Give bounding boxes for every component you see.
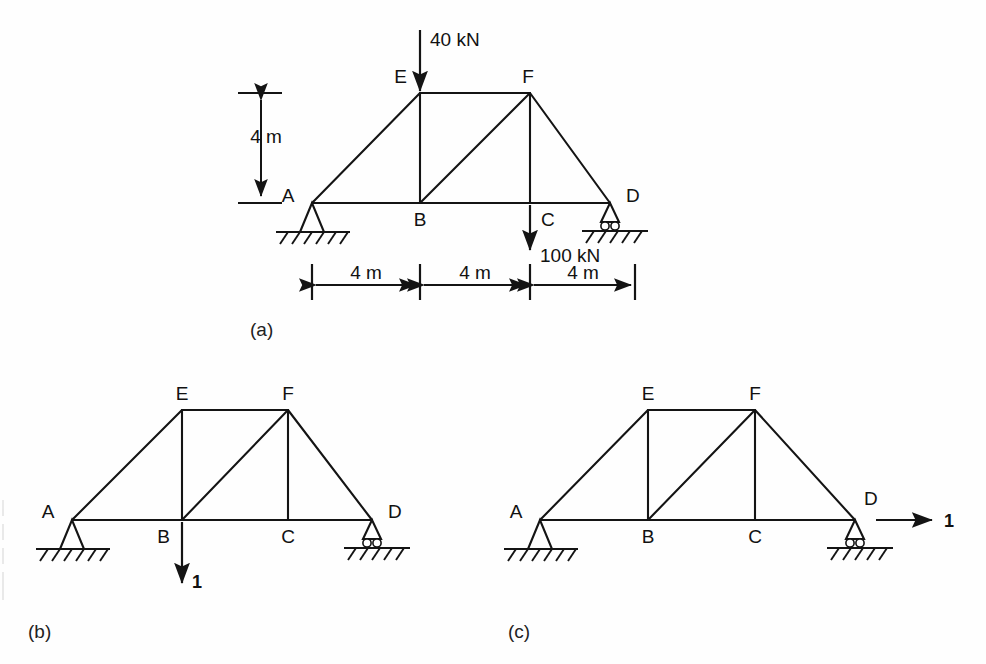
member-FD — [288, 410, 372, 520]
panel-b-node-label-F: F — [282, 383, 294, 404]
member-BF-diagonal — [648, 410, 755, 520]
panel-a-height-dimension — [238, 93, 282, 203]
panel-c-pin-support-A — [504, 520, 578, 561]
panel-a-pin-support-A — [276, 203, 350, 244]
panel-c: A B C D E F 1 (c) — [504, 383, 954, 642]
panel-a-span-label-3: 4 m — [567, 262, 599, 283]
member-FD — [530, 93, 610, 203]
panel-c-roller-support-D — [827, 520, 893, 560]
panel-b-node-label-E: E — [176, 383, 189, 404]
panel-b-node-label-B: B — [157, 526, 170, 547]
panel-c-node-label-D: D — [864, 488, 878, 509]
panel-a-node-label-E: E — [394, 66, 407, 87]
panel-a-height-label: 4 m — [250, 126, 282, 147]
member-AE — [540, 410, 648, 520]
member-AE — [312, 93, 420, 203]
panel-c-caption: (c) — [508, 621, 530, 642]
panel-a-node-label-B: B — [414, 209, 427, 230]
panel-b-caption: (b) — [28, 621, 51, 642]
panel-a: A B C D E F 40 kN 100 kN 4 m 4 m 4 m 4 m… — [238, 29, 648, 340]
panel-b-unit-load-label: 1 — [192, 572, 202, 592]
panel-b-roller-support-D — [344, 520, 410, 560]
panel-a-caption: (a) — [250, 319, 273, 340]
panel-c-node-label-E: E — [642, 383, 655, 404]
panel-a-roller-support-D — [582, 203, 648, 243]
panel-a-node-label-C: C — [541, 209, 555, 230]
panel-b: A B C D E F 1 (b) — [28, 383, 410, 642]
panel-c-node-label-A: A — [510, 501, 523, 522]
panel-b-node-label-C: C — [281, 526, 295, 547]
panel-b-node-label-A: A — [42, 501, 55, 522]
panel-c-node-label-B: B — [642, 526, 655, 547]
panel-a-node-label-F: F — [522, 66, 534, 87]
panel-c-unit-load-label: 1 — [944, 511, 954, 531]
panel-a-truss-members — [312, 93, 610, 203]
panel-a-span-label-1: 4 m — [350, 262, 382, 283]
panel-c-node-label-C: C — [748, 526, 762, 547]
member-AE — [72, 410, 182, 520]
panel-b-node-label-D: D — [388, 501, 402, 522]
truss-figure-svg: A B C D E F 40 kN 100 kN 4 m 4 m 4 m 4 m… — [0, 0, 986, 664]
panel-a-span-label-2: 4 m — [459, 262, 491, 283]
panel-a-node-label-D: D — [626, 185, 640, 206]
panel-a-node-label-A: A — [282, 185, 295, 206]
member-BF-diagonal — [182, 410, 288, 520]
figure-canvas: A B C D E F 40 kN 100 kN 4 m 4 m 4 m 4 m… — [0, 0, 986, 664]
member-FD — [755, 410, 855, 520]
panel-c-node-label-F: F — [749, 383, 761, 404]
member-BF-diagonal — [420, 93, 530, 203]
panel-b-pin-support-A — [36, 520, 110, 561]
panel-a-load-label-40kn: 40 kN — [430, 29, 480, 50]
panel-b-truss-members — [72, 410, 372, 520]
panel-c-truss-members — [540, 410, 855, 520]
